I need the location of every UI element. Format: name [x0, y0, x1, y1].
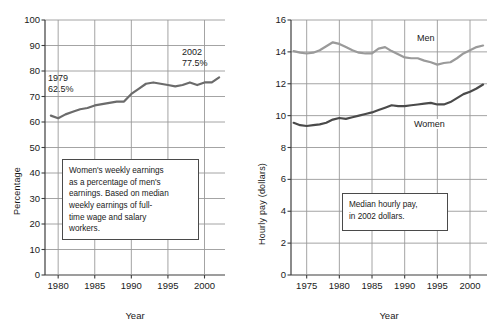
y-tick-label: 80: [10, 65, 40, 76]
annotation-2002: 2002 77.5%: [182, 47, 208, 70]
note-box-weekly-earnings: Women's weekly earningsas a percentage o…: [62, 159, 199, 240]
x-tick-label: 1985: [75, 280, 115, 291]
note-weekly-earnings-line-3: earnings. Based on median: [69, 188, 192, 200]
y-tick-label: 100: [10, 14, 40, 25]
note-box-median-hourly-pay: Median hourly pay,in 2002 dollars.: [342, 193, 448, 231]
annotation-1979-value: 62.5%: [48, 84, 74, 95]
y-tick-label: 12: [257, 78, 286, 89]
y-tick-label: 30: [10, 193, 40, 204]
y-tick-label: 70: [10, 91, 40, 102]
series-label-men: Men: [416, 33, 436, 43]
note-weekly-earnings-line-2: as a percentage of men's: [69, 177, 192, 189]
series-label-women: Women: [413, 119, 446, 129]
y-tick-label: 0: [10, 269, 40, 280]
note-median-hourly-pay-line-2: in 2002 dollars.: [349, 211, 441, 223]
y-tick-label: 16: [257, 14, 286, 25]
x-tick-label: 1995: [148, 280, 188, 291]
annotation-1979-year: 1979: [48, 73, 74, 84]
figure-root: Percentage 1009080706050403020100 198019…: [0, 0, 498, 335]
x-tick-label: 2000: [185, 280, 225, 291]
x-axis-label: Year: [339, 310, 439, 321]
x-tick-label: 1980: [38, 280, 78, 291]
note-median-hourly-pay-line-1: Median hourly pay,: [349, 199, 441, 211]
chart-panel-percentage: Percentage 1009080706050403020100 198019…: [0, 0, 249, 335]
annotation-2002-year: 2002: [182, 47, 208, 58]
note-weekly-earnings-line-1: Women's weekly earnings: [69, 165, 192, 177]
annotation-1979: 1979 62.5%: [48, 73, 74, 96]
y-tick-label: 6: [257, 173, 286, 184]
y-tick-label: 90: [10, 40, 40, 51]
chart-panel-hourly-pay: Hourly pay (dollars) 1614121086420 19751…: [249, 0, 498, 335]
y-tick-label: 2: [257, 237, 286, 248]
y-tick-label: 4: [257, 205, 286, 216]
x-tick-label: 1990: [111, 280, 151, 291]
annotation-2002-value: 77.5%: [182, 58, 208, 69]
note-weekly-earnings-line-6: workers.: [69, 223, 192, 235]
plot-area-hourly-pay: [291, 20, 487, 275]
y-tick-label: 10: [257, 110, 286, 121]
y-tick-label: 60: [10, 116, 40, 127]
y-tick-label: 10: [10, 244, 40, 255]
y-tick-label: 40: [10, 167, 40, 178]
note-weekly-earnings-line-4: weekly earnings of full-: [69, 200, 192, 212]
y-tick-label: 20: [10, 218, 40, 229]
y-tick-label: 50: [10, 142, 40, 153]
y-tick-label: 8: [257, 142, 286, 153]
y-tick-label: 14: [257, 46, 286, 57]
x-axis-label: Year: [85, 310, 185, 321]
x-tick-label: 2000: [450, 280, 490, 291]
y-tick-label: 0: [257, 269, 286, 280]
note-weekly-earnings-line-5: time wage and salary: [69, 212, 192, 224]
